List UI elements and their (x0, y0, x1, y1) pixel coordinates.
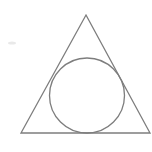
scan-artifact-smudge-icon (8, 41, 16, 44)
figure-canvas (0, 0, 152, 152)
geometry-figure (0, 0, 152, 152)
